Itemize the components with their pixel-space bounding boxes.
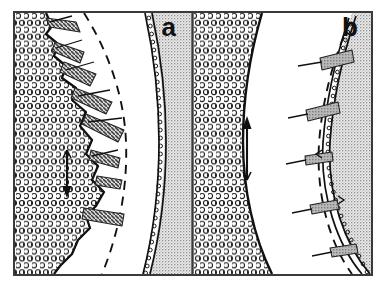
panel-a-label: a bbox=[162, 12, 177, 42]
figure-root: a b bbox=[0, 0, 386, 294]
panel-b-label: b bbox=[342, 12, 358, 42]
figure-canvas: a b bbox=[0, 0, 386, 294]
panel-a-content bbox=[15, 13, 191, 275]
panel-b-content bbox=[194, 13, 371, 274]
